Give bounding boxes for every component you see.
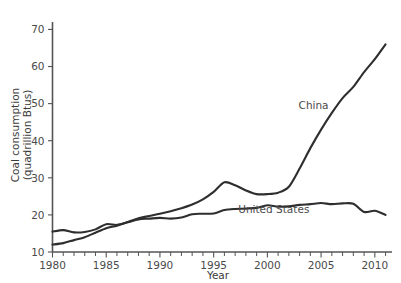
- chart-figure: 10203040506070 1980198519901995200020052…: [0, 0, 401, 283]
- y-tick-label: 40: [31, 135, 44, 147]
- y-tick-label: 20: [31, 209, 44, 221]
- y-axis-tick-labels: 10203040506070: [31, 23, 44, 258]
- line-chart: 10203040506070 1980198519901995200020052…: [0, 0, 401, 283]
- data-series-lines: [53, 44, 386, 244]
- x-axis-ticks: [53, 252, 386, 258]
- x-tick-label: 1990: [147, 259, 174, 271]
- x-tick-label: 2000: [254, 259, 281, 271]
- series-line-china: [53, 44, 386, 244]
- x-axis-title: Year: [206, 269, 230, 281]
- series-line-united-states: [53, 203, 386, 232]
- y-tick-label: 50: [31, 97, 44, 109]
- y-tick-label: 60: [31, 60, 44, 72]
- x-tick-label: 2005: [308, 259, 335, 271]
- series-label-china: China: [299, 99, 329, 111]
- x-tick-label: 1985: [93, 259, 120, 271]
- x-tick-label: 2010: [361, 259, 388, 271]
- series-inline-labels: ChinaUnited States: [238, 99, 328, 214]
- y-axis-title-line1: Coal consumption: [9, 88, 21, 182]
- y-tick-label: 30: [31, 172, 44, 184]
- x-tick-label: 1980: [39, 259, 66, 271]
- series-label-united-states: United States: [238, 203, 309, 215]
- y-tick-label: 10: [31, 246, 44, 258]
- axis-spines: [53, 22, 393, 252]
- y-axis-title-line2: (quadrillion Btus): [21, 90, 33, 180]
- y-tick-label: 70: [31, 23, 44, 35]
